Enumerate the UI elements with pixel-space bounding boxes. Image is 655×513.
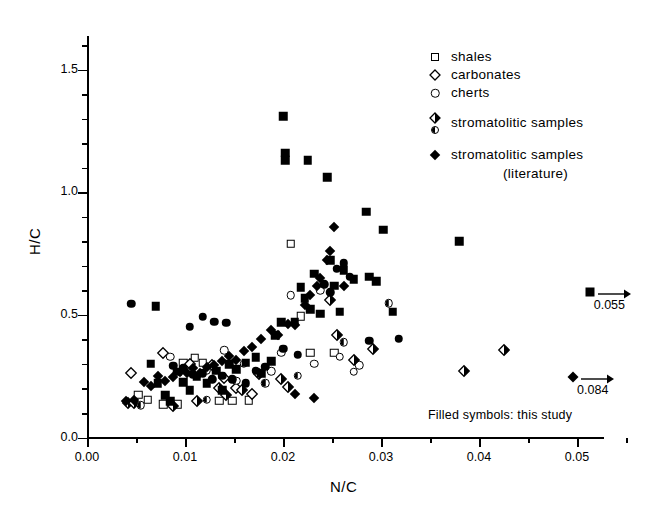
- tick-mark: [82, 217, 87, 219]
- data-point-square-filled: [300, 294, 309, 303]
- data-point-circle-filled: [127, 300, 136, 309]
- data-point-square-filled: [296, 283, 305, 292]
- data-point-circle-filled: [279, 344, 288, 353]
- data-point-circle-filled: [394, 335, 403, 344]
- data-point-circle-filled: [198, 313, 207, 322]
- y-tick-label: 1.0: [40, 184, 78, 198]
- tick-mark: [82, 45, 87, 47]
- y-tick-label: 0.0: [40, 430, 78, 444]
- tick-mark: [185, 438, 187, 447]
- x-axis-label: N/C: [330, 478, 357, 495]
- data-point-circle-half: [293, 371, 302, 380]
- legend-entry[interactable]: stromatolitic samples: [427, 146, 492, 164]
- data-point-square-filled: [316, 309, 325, 318]
- tick-mark: [332, 438, 334, 443]
- tick-mark: [283, 438, 285, 447]
- y-axis-line: [87, 36, 89, 438]
- data-point-circle-filled: [189, 370, 198, 379]
- data-point-square-filled: [251, 353, 260, 362]
- legend-entry[interactable]: carbonates: [427, 66, 492, 84]
- data-point-circle-filled: [293, 350, 302, 359]
- data-point-circle-filled: [326, 288, 335, 297]
- data-point-diamond-open: [126, 367, 137, 378]
- data-point-square-filled: [277, 318, 286, 327]
- legend-entry[interactable]: stromatolitic samples: [427, 112, 492, 138]
- offscale-marker-diamond-filled: [568, 372, 579, 383]
- data-point-square-filled: [271, 331, 280, 340]
- data-point-square-filled: [389, 308, 398, 317]
- filled-symbols-note: Filled symbols: this study: [428, 408, 572, 422]
- offscale-value-label: 0.084: [577, 383, 608, 397]
- data-point-circle-half: [340, 338, 349, 347]
- scatter-plot-figure: 0.000.010.020.030.040.050.00.51.01.5 H/C…: [0, 0, 655, 513]
- tick-mark: [82, 388, 87, 390]
- legend-symbol: [427, 48, 443, 66]
- x-tick-label: 0.02: [259, 450, 307, 464]
- data-point-diamond-half: [348, 355, 359, 366]
- x-tick-label: 0.00: [63, 450, 111, 464]
- tick-mark: [430, 438, 432, 443]
- tick-mark: [234, 438, 236, 443]
- data-point-diamond-filled: [325, 246, 336, 257]
- y-tick-label: 1.5: [40, 62, 78, 76]
- legend-entry[interactable]: shales: [427, 48, 492, 66]
- legend-continuation-line: (literature): [503, 166, 568, 181]
- legend-label: cherts: [451, 85, 490, 100]
- data-point-circle-half: [202, 395, 211, 404]
- legend-marker-circle-half: [431, 126, 439, 134]
- offscale-value-label: 0.055: [594, 298, 625, 312]
- tick-mark: [479, 438, 481, 447]
- data-point-circle-filled: [179, 364, 188, 373]
- data-point-square-filled: [362, 208, 371, 217]
- x-tick-label: 0.01: [161, 450, 209, 464]
- legend-label: stromatolitic samples: [451, 115, 583, 130]
- tick-mark: [78, 70, 87, 72]
- data-point-circle-filled: [320, 280, 329, 289]
- legend-marker-circle-open: [431, 89, 440, 98]
- legend-marker-diamond-half: [430, 113, 440, 123]
- data-point-diamond-filled: [129, 395, 140, 406]
- x-axis-line: [87, 437, 604, 439]
- data-point-diamond-half: [459, 366, 470, 377]
- legend-label: carbonates: [451, 67, 521, 82]
- legend-marker-square-open: [431, 53, 439, 61]
- tick-mark: [82, 290, 87, 292]
- tick-mark: [78, 438, 87, 440]
- data-point-circle-filled: [340, 259, 349, 268]
- tick-mark: [136, 438, 138, 443]
- tick-mark: [82, 364, 87, 366]
- data-point-square-filled: [336, 308, 345, 317]
- legend-marker-diamond-filled: [430, 150, 441, 161]
- legend-symbol: [427, 66, 443, 84]
- data-point-square-filled: [146, 360, 155, 369]
- data-point-square-filled: [232, 365, 241, 374]
- data-point-circle-open: [336, 352, 345, 361]
- tick-mark: [82, 168, 87, 170]
- data-point-circle-half: [385, 299, 394, 308]
- legend-entry[interactable]: cherts: [427, 84, 492, 102]
- legend-symbol: [427, 112, 443, 138]
- data-point-diamond-filled: [309, 393, 320, 404]
- data-point-circle-open: [166, 352, 175, 361]
- data-point-circle-filled: [228, 375, 237, 384]
- data-point-circle-filled: [242, 379, 251, 388]
- tick-mark: [528, 438, 530, 443]
- data-point-diamond-filled: [329, 222, 340, 233]
- data-point-square-filled: [242, 358, 251, 367]
- data-point-square-filled: [151, 302, 160, 311]
- legend-label: stromatolitic samples: [451, 147, 583, 162]
- tick-mark: [577, 438, 579, 447]
- data-point-square-filled: [306, 305, 315, 314]
- data-point-circle-filled: [210, 317, 219, 326]
- data-point-square-filled: [323, 173, 332, 182]
- tick-mark: [87, 438, 89, 447]
- tick-mark: [381, 438, 383, 447]
- tick-mark: [82, 143, 87, 145]
- data-point-square-filled: [218, 386, 227, 395]
- data-point-circle-open: [287, 291, 296, 300]
- data-point-circle-filled: [222, 318, 231, 327]
- data-point-circle-filled: [261, 363, 270, 372]
- data-point-square-open: [306, 349, 315, 358]
- tick-mark: [78, 315, 87, 317]
- legend-symbol: [427, 146, 443, 164]
